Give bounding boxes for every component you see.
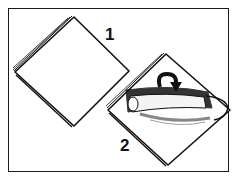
step-1-label: 1: [105, 26, 114, 43]
step-2-label: 2: [120, 137, 129, 154]
